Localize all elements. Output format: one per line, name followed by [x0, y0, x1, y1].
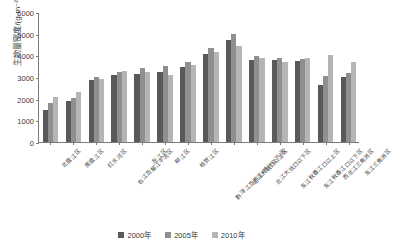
bar-group: [85, 12, 108, 142]
legend-item[interactable]: 2010年: [212, 229, 245, 240]
bar-group: [131, 12, 154, 142]
bar: [99, 79, 104, 142]
x-axis-tick-label: 北江大坑口以上区: [251, 147, 290, 186]
x-axis-tick: [50, 142, 51, 145]
x-axis-tick-label: 桂贺江区: [198, 147, 220, 169]
x-axis-tick-label: 西北江三角洲区: [341, 147, 376, 182]
x-axis-tick: [188, 142, 189, 145]
x-axis-tick-label: 右江及郁江干流区: [136, 147, 175, 186]
bar: [168, 75, 173, 142]
x-axis-tick-label: 红水河区: [106, 147, 128, 169]
x-axis-tick-label: 黔浔江及西江(梧州以下)区: [234, 147, 288, 201]
bar-group: [39, 12, 62, 142]
x-axis-tick: [119, 142, 120, 145]
y-axis-tick-label: 4000: [17, 52, 34, 61]
x-axis-tick-label: 南盘江区: [83, 147, 105, 169]
bar-group: [108, 12, 131, 142]
legend-label: 2000年: [127, 229, 151, 240]
x-axis-tick: [211, 142, 212, 145]
bar: [236, 46, 241, 142]
x-axis-tick: [280, 142, 281, 145]
legend-label: 2005年: [174, 229, 198, 240]
chart-legend: 2000年2005年2010年: [0, 229, 363, 240]
bar: [259, 58, 264, 143]
x-axis-tick: [96, 142, 97, 145]
bar: [122, 71, 127, 143]
bar-group: [154, 12, 177, 142]
legend-swatch: [165, 232, 171, 238]
bar-group: [268, 12, 291, 142]
bar-group: [200, 12, 223, 142]
bar-group: [245, 12, 268, 142]
x-axis-tick-label: 东江三角洲区: [362, 147, 393, 178]
legend-swatch: [212, 232, 218, 238]
bar: [351, 62, 356, 142]
bar-group: [177, 12, 200, 142]
x-axis-tick: [73, 142, 74, 145]
x-axis-tick-label: 北江大坑口以下区: [274, 147, 313, 186]
bar-group: [222, 12, 245, 142]
y-axis-tick-label: 6000: [17, 9, 34, 18]
bar: [305, 58, 310, 143]
x-axis-tick: [165, 142, 166, 145]
x-axis-tick: [349, 142, 350, 145]
y-axis-tick: [36, 143, 39, 144]
plot-area: 0100020003000400050006000: [38, 13, 359, 143]
bar-group: [314, 12, 337, 142]
x-axis-tick: [142, 142, 143, 145]
y-axis-tick-label: 3000: [17, 74, 34, 83]
bar: [282, 62, 287, 142]
x-axis-tick: [303, 142, 304, 145]
x-axis-tick: [234, 142, 235, 145]
bar-group: [62, 12, 85, 142]
legend-label: 2010年: [221, 229, 245, 240]
bar: [214, 52, 219, 142]
y-axis-tick-label: 1000: [17, 117, 34, 126]
x-axis-tick-label: 北盘江区: [60, 147, 82, 169]
x-axis-tick-label: 左江区: [150, 147, 168, 165]
bar-group: [337, 12, 360, 142]
x-axis-tick-label: 东江秋香江口以上区: [298, 147, 341, 190]
y-axis-tick-label: 0: [30, 139, 34, 148]
bar: [53, 97, 58, 143]
bar: [76, 92, 81, 142]
legend-item[interactable]: 2000年: [118, 229, 151, 240]
bar: [328, 55, 333, 142]
legend-swatch: [118, 232, 124, 238]
x-axis-tick: [257, 142, 258, 145]
bar-group: [291, 12, 314, 142]
y-axis-tick-label: 2000: [17, 95, 34, 104]
x-axis-tick-label: 东江秋香江口以下区: [321, 147, 364, 190]
legend-item[interactable]: 2005年: [165, 229, 198, 240]
x-axis-tick: [326, 142, 327, 145]
bar: [191, 65, 196, 142]
bar: [145, 72, 150, 142]
y-axis-tick-label: 5000: [17, 30, 34, 39]
x-axis-tick-label: 柳江区: [173, 147, 191, 165]
